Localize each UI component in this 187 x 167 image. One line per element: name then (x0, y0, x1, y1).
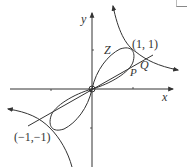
point-label-p: P (130, 67, 137, 78)
math-diagram: y x (1, 1) (−1,−1) Z P Q (0, 0, 187, 167)
petal-upper (92, 48, 134, 89)
corner-mark (176, 0, 187, 7)
point-label-z: Z (104, 44, 111, 56)
x-axis-label: x (162, 91, 167, 103)
point-label-q: Q (140, 59, 149, 71)
y-axis-label: y (81, 13, 86, 25)
point-label-lower: (−1,−1) (14, 131, 51, 143)
point-label-upper: (1, 1) (132, 38, 158, 50)
